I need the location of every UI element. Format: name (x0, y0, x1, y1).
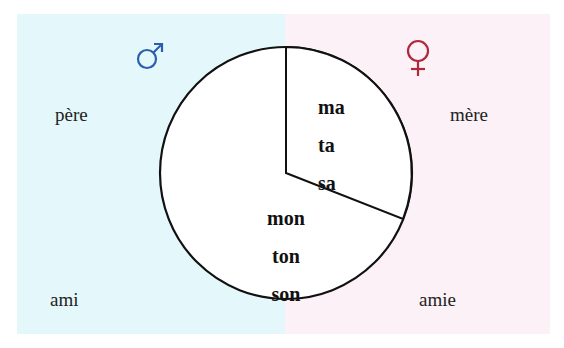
possessive-son: son (246, 275, 326, 313)
noun-mere: mère (450, 104, 488, 126)
possessive-ton: ton (246, 237, 326, 275)
feminine-symbol-icon (403, 38, 433, 82)
masculine-possessives: mon ton son (246, 199, 326, 313)
feminine-possessives: ma ta sa (318, 88, 345, 202)
noun-amie: amie (419, 289, 456, 311)
possessive-ma: ma (318, 88, 345, 126)
possessive-mon: mon (246, 199, 326, 237)
possessive-ta: ta (318, 126, 345, 164)
masculine-symbol-icon (135, 40, 167, 76)
noun-ami: ami (50, 289, 79, 311)
noun-pere: père (55, 104, 88, 126)
possessive-sa: sa (318, 164, 345, 202)
